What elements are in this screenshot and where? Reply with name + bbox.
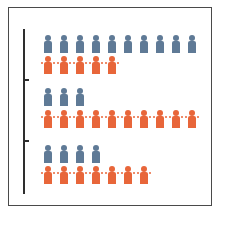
person-icon [56, 166, 72, 184]
person-icon [40, 110, 56, 128]
person-icon [184, 110, 200, 128]
person-icon [56, 35, 72, 53]
person-icon [184, 35, 200, 53]
pictograph-row-blue [40, 145, 104, 163]
person-icon [72, 35, 88, 53]
person-icon [104, 166, 120, 184]
person-icon [72, 56, 88, 74]
person-icon [56, 56, 72, 74]
person-icon [72, 88, 88, 106]
pictograph-row-orange [40, 56, 120, 74]
pictograph-row-orange [40, 166, 152, 184]
person-icon [40, 145, 56, 163]
person-icon [72, 110, 88, 128]
person-icon [88, 110, 104, 128]
person-icon [56, 88, 72, 106]
person-icon [136, 110, 152, 128]
person-icon [120, 166, 136, 184]
axis-tick [23, 140, 29, 142]
person-icon [40, 56, 56, 74]
person-icon [104, 35, 120, 53]
pictograph-row-blue [40, 88, 88, 106]
person-icon [104, 56, 120, 74]
person-icon [88, 145, 104, 163]
person-icon [168, 35, 184, 53]
person-icon [40, 88, 56, 106]
person-icon [120, 110, 136, 128]
person-icon [168, 110, 184, 128]
person-icon [152, 35, 168, 53]
person-icon [88, 56, 104, 74]
person-icon [88, 35, 104, 53]
person-icon [136, 35, 152, 53]
person-icon [120, 35, 136, 53]
axis-tick [23, 79, 29, 81]
person-icon [72, 145, 88, 163]
person-icon [104, 110, 120, 128]
person-icon [152, 110, 168, 128]
person-icon [56, 145, 72, 163]
person-icon [88, 166, 104, 184]
person-icon [72, 166, 88, 184]
person-icon [40, 166, 56, 184]
person-icon [136, 166, 152, 184]
pictograph-row-orange [40, 110, 200, 128]
person-icon [56, 110, 72, 128]
pictograph-row-blue [40, 35, 200, 53]
person-icon [40, 35, 56, 53]
y-axis-line [23, 29, 25, 194]
